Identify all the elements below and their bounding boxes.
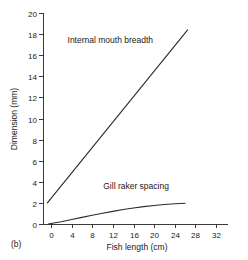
y-tick-label: 8 [33, 137, 38, 146]
y-tick-label: 4 [33, 179, 38, 188]
annotation-internal-mouth-breadth: Internal mouth breadth [68, 35, 154, 45]
y-tick-label: 16 [28, 52, 37, 61]
y-tick-label: 18 [28, 31, 37, 40]
x-tick-label: 20 [150, 231, 159, 240]
y-tick-label: 14 [28, 73, 37, 82]
panel-label: (b) [11, 239, 22, 249]
chart-svg: 02468101214161820 048121620242832 Intern… [0, 0, 248, 260]
y-axis-title: Dimension (mm) [9, 88, 19, 151]
series-gill-raker-spacing [48, 203, 185, 224]
x-tick-label: 12 [109, 231, 118, 240]
x-axis-ticks: 048121620242832 [49, 224, 221, 240]
y-tick-label: 20 [28, 10, 37, 19]
y-axis-ticks: 02468101214161820 [28, 10, 43, 230]
x-tick-label: 16 [130, 231, 139, 240]
y-tick-label: 12 [28, 94, 37, 103]
y-tick-label: 10 [28, 116, 37, 125]
annotation-gill-raker-spacing: Gill raker spacing [103, 181, 169, 191]
y-tick-label: 2 [33, 200, 38, 209]
y-tick-label: 0 [33, 221, 38, 230]
x-tick-label: 8 [90, 231, 95, 240]
x-tick-label: 32 [212, 231, 221, 240]
figure-panel-b: 02468101214161820 048121620242832 Intern… [0, 0, 248, 260]
x-tick-label: 24 [171, 231, 180, 240]
series-internal-mouth-breadth [47, 30, 187, 203]
x-tick-label: 4 [70, 231, 75, 240]
x-tick-label: 28 [191, 231, 200, 240]
x-tick-label: 0 [49, 231, 54, 240]
x-axis-title: Fish length (cm) [107, 242, 168, 252]
chart-axes [43, 13, 228, 224]
y-tick-label: 6 [33, 158, 38, 167]
